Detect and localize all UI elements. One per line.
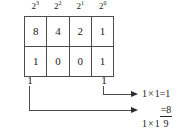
equation-result: 8 (166, 104, 171, 115)
table-cell: 1 (91, 17, 113, 47)
table-row: 1 0 0 1 (25, 47, 114, 77)
table-cell: 2 (69, 17, 91, 47)
sum-addend: =8 (160, 104, 173, 117)
sum-total: 9 (160, 117, 173, 130)
under-table-digit-lsb: 1 (98, 75, 110, 86)
equation-msb: 1×1=89 (142, 104, 172, 130)
table-cell: 1 (25, 47, 47, 77)
under-table-digit-msb: 1 (24, 75, 36, 86)
table-row: 8 4 2 1 (25, 17, 114, 47)
table-cell: 0 (69, 47, 91, 77)
equation-result: 1 (165, 88, 170, 99)
table-cell: 1 (91, 47, 113, 77)
exponent-label-2-1: 21 (69, 1, 92, 16)
equation-lsb: 1×1=1 (142, 88, 170, 100)
exponent-power: 1 (81, 0, 84, 6)
table-cell: 4 (47, 17, 69, 47)
arrow-head-icon (131, 107, 138, 113)
binary-place-value-diagram: 23 22 21 20 8 4 2 1 1 0 0 1 1 1 (0, 0, 196, 133)
binary-place-value-table: 8 4 2 1 1 0 0 1 (24, 16, 114, 77)
exponent-header-row: 23 22 21 20 (24, 1, 114, 16)
exponent-power: 3 (36, 0, 39, 6)
exponent-label-2-3: 23 (24, 1, 47, 16)
exponent-power: 2 (59, 0, 62, 6)
msb-connector-vertical (29, 86, 30, 111)
multiplication-sign-icon: × (147, 118, 155, 129)
msb-connector-horizontal (29, 110, 133, 111)
exponent-label-2-2: 22 (47, 1, 70, 16)
exponent-power: 0 (104, 0, 107, 6)
table-cell: 8 (25, 17, 47, 47)
lsb-connector-horizontal (103, 94, 133, 95)
sum-group: =89 (160, 104, 173, 130)
multiplication-sign-icon: × (147, 88, 155, 99)
exponent-label-2-0: 20 (92, 1, 115, 16)
table-cell: 0 (47, 47, 69, 77)
arrow-head-icon (131, 91, 138, 97)
